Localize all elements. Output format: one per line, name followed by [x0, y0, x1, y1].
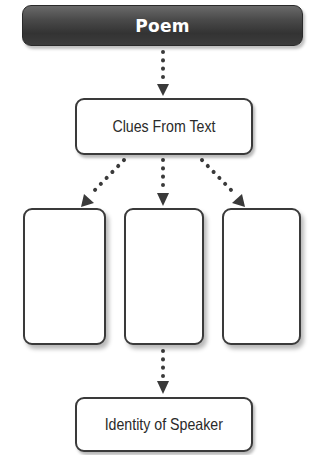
arrow-clues-to-box-1 — [81, 160, 124, 207]
identity-of-speaker-label: Identity of Speaker — [105, 415, 223, 434]
arrow-box-2-to-identity — [157, 351, 169, 394]
clues-from-text-node: Clues From Text — [75, 98, 253, 155]
identity-of-speaker-node: Identity of Speaker — [75, 397, 253, 452]
arrow-clues-to-box-3 — [202, 160, 245, 207]
arrow-clues-to-box-2 — [157, 160, 169, 206]
clue-box-3 — [222, 208, 301, 345]
clue-box-2 — [124, 208, 204, 345]
poem-label: Poem — [135, 16, 190, 36]
clue-box-1 — [23, 208, 106, 345]
clues-from-text-label: Clues From Text — [112, 117, 215, 136]
arrow-poem-to-clues — [157, 52, 169, 96]
poem-node: Poem — [22, 5, 303, 46]
